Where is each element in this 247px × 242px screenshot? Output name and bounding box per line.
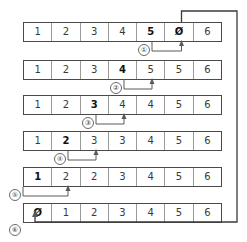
shift-connector-1	[152, 42, 182, 51]
shift-connector-4	[68, 151, 96, 160]
shift-arrowhead-4	[94, 149, 99, 155]
shift-arrowhead-2	[150, 78, 155, 84]
shift-connector-2	[124, 80, 152, 89]
connector-lines	[0, 0, 247, 242]
shift-arrowhead-1	[179, 40, 184, 46]
shift-connector-3	[96, 115, 124, 124]
shift-connector-5	[23, 187, 68, 196]
diagram-canvas: 1 2 3 4 5 Ø 6 ① 1 2 3 4 5 5 6 ② 1 2 3 4 …	[0, 0, 247, 242]
shift-arrowhead-5	[66, 185, 71, 191]
wrap-around-connector	[35, 11, 237, 222]
wrap-around-arrowhead	[32, 210, 38, 217]
shift-arrowhead-3	[122, 113, 127, 119]
